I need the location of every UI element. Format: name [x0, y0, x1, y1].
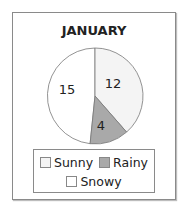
swatch-snowy	[66, 176, 77, 187]
legend: Sunny Rainy Snowy	[33, 149, 155, 193]
legend-item-sunny: Sunny	[40, 155, 93, 170]
legend-row-1: Sunny Rainy	[34, 155, 154, 170]
label-rainy: 4	[97, 118, 105, 133]
legend-label-sunny: Sunny	[54, 155, 93, 170]
label-sunny: 12	[105, 76, 122, 91]
pie-chart: 12 4 15	[45, 46, 145, 146]
legend-item-snowy: Snowy	[66, 174, 121, 189]
legend-row-2: Snowy	[34, 174, 154, 189]
legend-label-snowy: Snowy	[80, 174, 121, 189]
chart-title: JANUARY	[13, 23, 175, 38]
label-snowy: 15	[59, 82, 76, 97]
legend-item-rainy: Rainy	[99, 155, 148, 170]
chart-frame: JANUARY 12 4 15 Sunny Rainy Snowy	[12, 12, 176, 200]
legend-label-rainy: Rainy	[113, 155, 148, 170]
swatch-sunny	[40, 157, 51, 168]
swatch-rainy	[99, 157, 110, 168]
